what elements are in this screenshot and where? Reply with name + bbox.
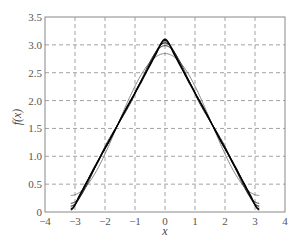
y-tick-label: 2.0 [28,95,42,107]
y-tick-label: 0 [37,206,43,218]
y-tick-label: 0.5 [28,178,42,190]
x-tick-label: −1 [129,215,141,227]
y-tick-label: 2.5 [28,67,42,79]
grid-lines [45,17,285,212]
x-tick-label: 2 [222,215,228,227]
x-tick-label: 4 [282,215,288,227]
x-tick-label: −2 [99,215,111,227]
y-tick-label: 1.0 [28,150,42,162]
x-tick-label: 1 [192,215,198,227]
y-axis-label: f(x) [10,109,24,126]
x-axis-label: x [161,224,168,238]
fourier-line-chart: −4−3−2−101234 00.51.01.52.02.53.03.5 x f… [0,0,298,245]
y-axis-ticks: 00.51.01.52.02.53.03.5 [28,11,42,218]
y-tick-label: 1.5 [28,122,42,134]
y-tick-label: 3.5 [28,11,42,23]
x-tick-label: 3 [252,215,258,227]
x-tick-label: −3 [69,215,81,227]
y-tick-label: 3.0 [28,39,42,51]
